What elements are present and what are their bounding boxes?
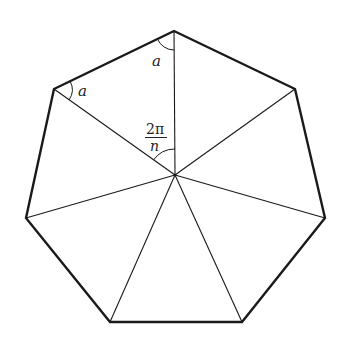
angle-label-left: a [78,82,87,100]
central-angle-numerator: 2π [146,121,164,137]
central-angle-denominator: n [150,138,159,154]
angle-label-top: a [152,52,161,70]
center-point [174,174,177,177]
heptagon-diagram: a a 2π n [0,0,355,348]
background [0,0,355,348]
